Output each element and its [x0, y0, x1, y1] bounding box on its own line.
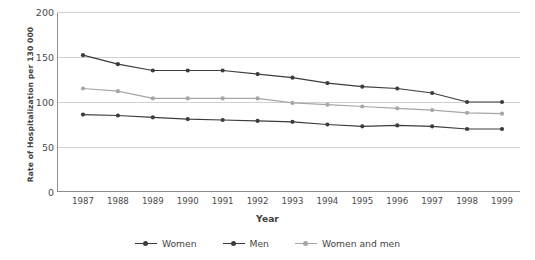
legend-marker-icon [295, 240, 317, 248]
data-point [186, 96, 190, 100]
y-tick-label: 200 [24, 7, 54, 18]
data-point [221, 118, 225, 122]
data-point [255, 72, 259, 76]
data-point [151, 68, 155, 72]
legend-label: Women [162, 238, 197, 249]
data-point [116, 89, 120, 93]
data-point [221, 68, 225, 72]
legend-marker-icon [135, 240, 157, 248]
data-point [430, 91, 434, 95]
legend-item[interactable]: Women [135, 238, 197, 249]
y-tick-label: 0 [24, 187, 54, 198]
data-point [395, 123, 399, 127]
plot-area [57, 12, 520, 192]
data-point [360, 85, 364, 89]
data-point [255, 119, 259, 123]
x-axis-title: Year [0, 213, 535, 224]
data-point [465, 111, 469, 115]
data-point [151, 96, 155, 100]
legend-marker-icon [223, 240, 245, 248]
y-axis-tick-labels: 200 150 100 50 0 [24, 0, 54, 200]
data-point [186, 117, 190, 121]
data-point [500, 112, 504, 116]
y-tick-label: 150 [24, 52, 54, 63]
data-point [290, 120, 294, 124]
legend-item[interactable]: Women and men [295, 238, 400, 249]
data-point [116, 113, 120, 117]
data-point [395, 86, 399, 90]
legend-item[interactable]: Men [223, 238, 269, 249]
data-point [325, 81, 329, 85]
line-chart: Rate of Hospitalization per 130 000 200 … [0, 0, 535, 260]
series-men [81, 113, 504, 132]
data-point [81, 113, 85, 117]
series-women-and-men [81, 86, 504, 115]
data-point [81, 53, 85, 57]
legend-label: Men [250, 238, 269, 249]
data-point [290, 101, 294, 105]
data-point [430, 108, 434, 112]
data-point [360, 104, 364, 108]
y-tick-label: 50 [24, 142, 54, 153]
data-point [500, 100, 504, 104]
data-point [360, 124, 364, 128]
data-point [151, 115, 155, 119]
data-point [116, 62, 120, 66]
plot-svg [57, 12, 520, 192]
chart-legend: WomenMenWomen and men [0, 238, 535, 249]
data-point [81, 86, 85, 90]
data-point [325, 103, 329, 107]
data-point [221, 96, 225, 100]
data-point [290, 76, 294, 80]
data-point [465, 127, 469, 131]
data-point [500, 127, 504, 131]
data-point [465, 100, 469, 104]
data-point [255, 96, 259, 100]
data-point [395, 106, 399, 110]
data-point [186, 68, 190, 72]
legend-label: Women and men [322, 238, 400, 249]
data-point [430, 124, 434, 128]
y-tick-label: 100 [24, 97, 54, 108]
data-point [325, 122, 329, 126]
x-tick-label: 1999 [479, 196, 525, 206]
